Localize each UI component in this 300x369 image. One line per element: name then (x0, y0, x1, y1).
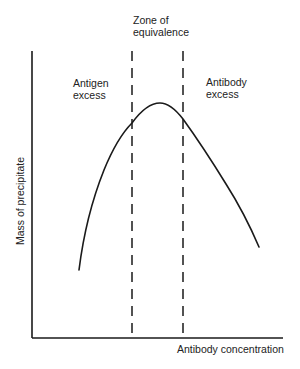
x-axis-label: Antibody concentration (177, 343, 284, 355)
precipitation-curve (79, 103, 259, 270)
precipitin-curve-diagram (0, 0, 300, 369)
antigen-excess-label: Antigen excess (73, 77, 109, 101)
y-axis-label: Mass of precipitate (14, 157, 26, 245)
antibody-excess-label: Antibody excess (206, 76, 247, 100)
zone-of-equivalence-label: Zone of equivalence (133, 14, 189, 38)
